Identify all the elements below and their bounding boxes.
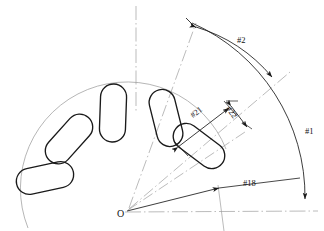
label-dimension-1: #1 — [305, 126, 314, 136]
label-origin: O — [117, 208, 124, 219]
capsule-group — [14, 84, 230, 197]
extension-line-22b — [242, 122, 252, 129]
extension-line-21a — [174, 141, 188, 156]
label-dimension-18: #18 — [243, 178, 256, 188]
capsule-shape — [168, 118, 230, 174]
dimension-line-18 — [127, 188, 219, 211]
dimension-arc-1-start-arrow — [186, 18, 196, 28]
capsule-shape — [99, 84, 127, 143]
dimension-lines — [127, 18, 305, 211]
diagram-svg — [0, 0, 324, 231]
capsule-shape — [40, 109, 98, 169]
diagram-canvas: #2 #1 #18 #21 #22 O — [0, 0, 324, 231]
leader-line-1 — [296, 120, 302, 132]
label-dimension-2: #2 — [237, 35, 246, 45]
dimension-arc-1 — [192, 23, 305, 199]
axis-tick-18 — [218, 185, 224, 231]
construction-lines — [20, 6, 318, 231]
capsule-path-arc — [20, 82, 226, 228]
radial-line-capsule — [128, 132, 245, 210]
dimension-line-18-ext — [219, 178, 300, 188]
dimension-arc-2 — [196, 27, 272, 77]
